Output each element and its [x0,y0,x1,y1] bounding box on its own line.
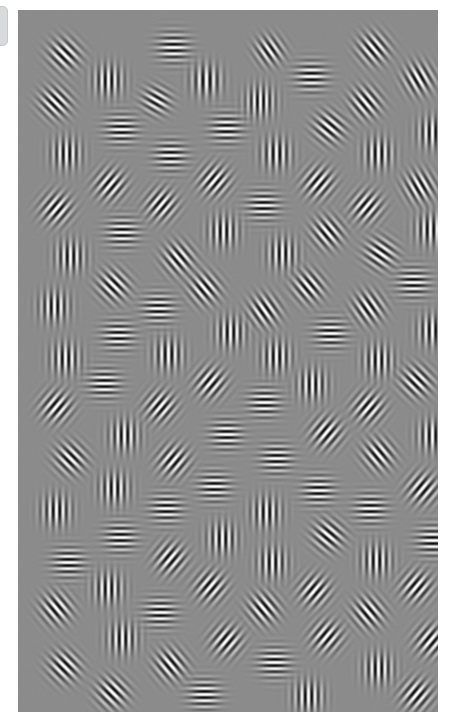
gabor-field-canvas[interactable] [18,10,438,712]
drawer-handle[interactable] [0,6,8,46]
app-root [0,0,458,719]
gabor-stimulus-panel[interactable] [18,10,438,712]
